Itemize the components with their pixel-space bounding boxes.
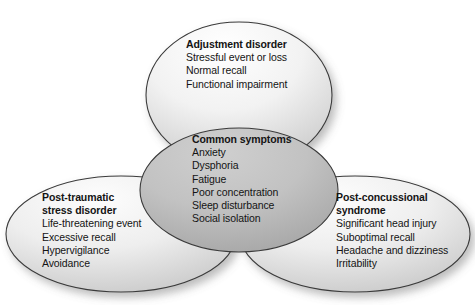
group-item: Fatigue: [192, 173, 291, 186]
group-title-post-concussional-syndrome-line2: syndrome: [336, 204, 448, 217]
group-item: Stressful event or loss: [186, 51, 287, 64]
group-item: Significant head injury: [336, 217, 448, 230]
group-title-common-symptoms: Common symptoms: [192, 133, 291, 146]
group-title-post-traumatic-stress-disorder-line2: stress disorder: [42, 204, 141, 217]
group-item: Social isolation: [192, 212, 291, 225]
group-item: Avoidance: [42, 257, 141, 270]
group-title-post-concussional-syndrome: Post-concussional: [336, 191, 448, 204]
group-item: Excessive recall: [42, 231, 141, 244]
group-item: Sleep disturbance: [192, 199, 291, 212]
group-item: Suboptimal recall: [336, 231, 448, 244]
group-item: Dysphoria: [192, 159, 291, 172]
group-label-post-traumatic-stress-disorder: Post-traumatic stress disorder Life-thre…: [42, 191, 141, 270]
group-item: Functional impairment: [186, 78, 287, 91]
group-item: Life-threatening event: [42, 217, 141, 230]
group-item: Hypervigilance: [42, 244, 141, 257]
venn-diagram: Adjustment disorder Stressful event or l…: [0, 0, 475, 305]
group-label-post-concussional-syndrome: Post-concussional syndrome Significant h…: [336, 191, 448, 270]
group-item: Poor concentration: [192, 186, 291, 199]
group-title-post-traumatic-stress-disorder: Post-traumatic: [42, 191, 141, 204]
group-label-common-symptoms: Common symptoms Anxiety Dysphoria Fatigu…: [192, 133, 291, 225]
group-label-adjustment-disorder: Adjustment disorder Stressful event or l…: [186, 38, 287, 91]
group-item: Headache and dizziness: [336, 244, 448, 257]
group-item: Anxiety: [192, 146, 291, 159]
group-title-adjustment-disorder: Adjustment disorder: [186, 38, 287, 51]
group-item: Irritability: [336, 257, 448, 270]
group-item: Normal recall: [186, 64, 287, 77]
